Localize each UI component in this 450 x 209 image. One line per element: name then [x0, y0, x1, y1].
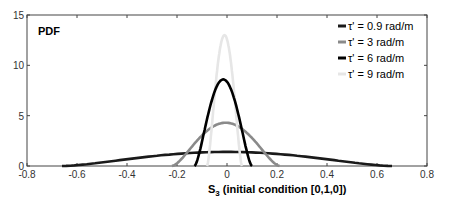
x-tick-label: 0.8: [420, 169, 434, 180]
x-tick-label: 0.6: [370, 169, 384, 180]
legend: τ' = 0.9 rad/mτ' = 3 rad/mτ' = 6 rad/mτ'…: [338, 20, 413, 80]
x-tick-label: 0: [224, 169, 230, 180]
x-tick-label: -0.6: [68, 169, 86, 180]
x-tick-label: 0.4: [320, 169, 334, 180]
x-tick-label: -0.2: [168, 169, 186, 180]
legend-label: τ' = 0.9 rad/m: [348, 20, 413, 32]
y-tick-label: 5: [18, 111, 24, 122]
y-tick-labels: 051015: [13, 10, 25, 172]
y-tick-label: 15: [13, 10, 25, 21]
pdf-curves: [62, 35, 392, 166]
x-axis-title: S3 (initial condition [0,1,0]): [208, 183, 347, 198]
x-tick-label: -0.4: [118, 169, 136, 180]
series-line: [172, 123, 280, 166]
legend-label: τ' = 3 rad/m: [348, 36, 404, 48]
y-tick-label: 0: [18, 161, 24, 172]
x-tick-label: 0.2: [270, 169, 284, 180]
panel-label: PDF: [38, 25, 60, 37]
legend-label: τ' = 6 rad/m: [348, 52, 404, 64]
x-tick-labels: -0.8-0.6-0.4-0.200.20.40.60.8: [18, 169, 434, 180]
legend-label: τ' = 9 rad/m: [348, 68, 404, 80]
y-tick-label: 10: [13, 60, 25, 71]
pdf-chart: -0.8-0.6-0.4-0.200.20.40.60.8 051015 PDF…: [0, 0, 450, 209]
